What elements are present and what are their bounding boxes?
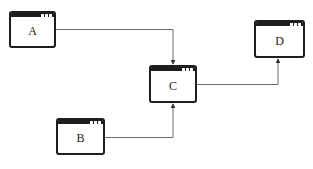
edge-b-to-c bbox=[105, 104, 173, 138]
node-b-window: B bbox=[56, 118, 105, 155]
node-c-window: C bbox=[149, 65, 197, 103]
edge-a-to-c bbox=[56, 30, 173, 65]
node-a-label: A bbox=[11, 17, 54, 46]
node-b-label: B bbox=[58, 124, 103, 153]
node-d-window: D bbox=[254, 20, 305, 58]
edge-c-to-d bbox=[197, 59, 278, 85]
node-a-window: A bbox=[9, 11, 56, 48]
node-c-label: C bbox=[151, 71, 195, 101]
node-d-label: D bbox=[256, 26, 303, 56]
